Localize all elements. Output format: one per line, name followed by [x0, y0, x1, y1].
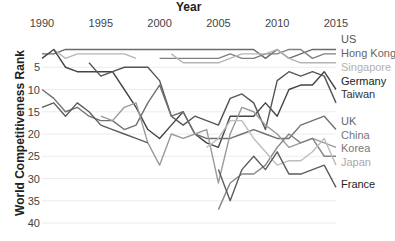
legend-label-us: US — [341, 33, 356, 45]
legend-label-korea: Korea — [341, 142, 371, 154]
x-tick-label: 2010 — [265, 17, 289, 29]
x-tick-label: 2015 — [324, 17, 348, 29]
legend-label-taiwan: Taiwan — [341, 88, 375, 100]
x-tick-label: 2005 — [206, 17, 230, 29]
x-axis-ticks: 199019952000200520102015 — [30, 17, 348, 29]
series-line-france — [42, 103, 148, 143]
line-chart: 199019952000200520102015 510152025303540… — [0, 0, 395, 241]
legend-label-hong-kong: Hong Kong — [341, 47, 395, 59]
legend-label-france: France — [341, 178, 375, 190]
y-tick-label: 15 — [28, 106, 40, 118]
legend-label-china: China — [341, 129, 371, 141]
y-tick-label: 40 — [28, 217, 40, 229]
series-lines — [42, 49, 336, 209]
y-tick-label: 5 — [34, 61, 40, 73]
series-line-singapore — [54, 49, 136, 58]
gridlines — [42, 67, 336, 223]
y-axis-ticks: 510152025303540 — [28, 61, 40, 229]
x-tick-label: 2000 — [147, 17, 171, 29]
series-line-japan — [207, 121, 336, 165]
x-tick-label: 1990 — [30, 17, 54, 29]
series-line-germany — [42, 49, 336, 147]
legend-label-germany: Germany — [341, 75, 387, 87]
series-line-taiwan — [89, 63, 336, 130]
series-line-singapore — [171, 49, 336, 62]
y-tick-label: 30 — [28, 173, 40, 185]
legend-label-singapore: Singapore — [341, 61, 391, 73]
y-tick-label: 25 — [28, 150, 40, 162]
legend-label-uk: UK — [341, 115, 357, 127]
y-tick-label: 20 — [28, 128, 40, 140]
series-line-france — [218, 152, 336, 201]
y-tick-label: 35 — [28, 195, 40, 207]
legend-label-japan: Japan — [341, 156, 371, 168]
x-tick-label: 1995 — [89, 17, 113, 29]
y-tick-label: 10 — [28, 84, 40, 96]
legend: USHong KongSingaporeGermanyTaiwanUKChina… — [341, 33, 395, 190]
